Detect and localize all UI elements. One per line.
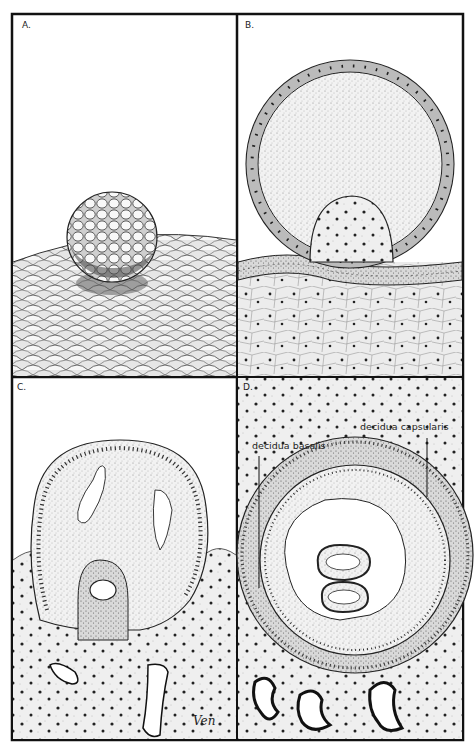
panel-b-drawing [238, 60, 462, 376]
figure-frame: Ven [0, 0, 475, 749]
decidua-capsularis-label: decidua capsularis [360, 421, 449, 432]
panel-b-label: B. [245, 20, 254, 30]
artist-signature: Ven [193, 714, 215, 728]
panel-c-drawing: Ven [13, 415, 236, 739]
implantation-figure: Ven A. B. C. D. decidua basalis decidua … [0, 0, 475, 749]
panel-d-drawing [237, 378, 473, 739]
panel-d-label: D. [243, 382, 253, 392]
panel-a-drawing [13, 192, 236, 376]
panel-a-label: A. [22, 20, 31, 30]
decidua-basalis-label: decidua basalis [252, 440, 325, 451]
panel-c-label: C. [17, 382, 26, 392]
